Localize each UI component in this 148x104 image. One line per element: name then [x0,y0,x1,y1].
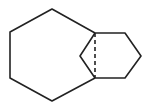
small-ring-right [95,33,141,78]
molecule-diagram [0,0,148,104]
bridge-left [80,33,95,78]
large-ring [10,9,95,101]
